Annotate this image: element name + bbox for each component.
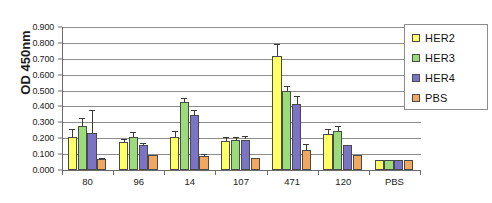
gridline xyxy=(63,27,421,28)
chart-legend: HER2HER3HER4PBS xyxy=(404,24,488,110)
bar-her3-14 xyxy=(180,102,189,170)
chart-title-clipped xyxy=(0,0,492,12)
error-bar-cap xyxy=(79,118,85,119)
error-bar-cap xyxy=(335,126,341,127)
bar-her4-pbs xyxy=(394,160,403,170)
error-bar-cap xyxy=(325,129,331,130)
bar-pbs-471 xyxy=(302,150,311,170)
error-bar-cap xyxy=(130,132,136,133)
gridline xyxy=(63,122,421,123)
error-bar-cap xyxy=(172,131,178,132)
x-axis-separator xyxy=(164,170,165,175)
bar-her2-80 xyxy=(68,137,77,170)
y-tick-label: 0.800 xyxy=(2,38,54,48)
bar-her4-96 xyxy=(139,145,148,170)
legend-swatch-her4 xyxy=(412,74,420,82)
error-bar-cap xyxy=(89,110,95,111)
error-bar xyxy=(72,129,73,137)
y-tick-label: 0.900 xyxy=(2,22,54,32)
bar-her4-107 xyxy=(241,140,250,171)
x-axis-separator xyxy=(62,170,63,175)
error-bar-cap xyxy=(99,158,105,159)
error-bar-cap xyxy=(294,96,300,97)
x-tick-label-471: 471 xyxy=(284,176,300,187)
y-tick-label: 0.200 xyxy=(2,133,54,143)
bar-pbs-14 xyxy=(199,156,208,170)
gridline xyxy=(63,106,421,107)
legend-label: HER3 xyxy=(425,52,455,64)
error-bar-cap xyxy=(201,154,207,155)
error-bar-cap xyxy=(121,139,127,140)
legend-swatch-pbs xyxy=(412,94,420,102)
legend-item-pbs[interactable]: PBS xyxy=(412,91,448,105)
error-bar-cap xyxy=(242,136,248,137)
legend-swatch-her2 xyxy=(412,34,420,42)
bar-pbs-120 xyxy=(353,155,362,170)
y-tick-label: 0.300 xyxy=(2,117,54,127)
error-bar-cap xyxy=(303,144,309,145)
y-tick-label: 0.400 xyxy=(2,101,54,111)
bar-her3-80 xyxy=(78,126,87,170)
legend-swatch-her3 xyxy=(412,54,420,62)
bar-her2-471 xyxy=(272,56,281,170)
bar-her3-120 xyxy=(333,131,342,170)
y-tick-label: 0.100 xyxy=(2,149,54,159)
error-bar-cap xyxy=(284,86,290,87)
bar-her3-pbs xyxy=(384,160,393,170)
x-tick-label-120: 120 xyxy=(335,176,351,187)
bar-her3-107 xyxy=(231,140,240,170)
bar-her2-pbs xyxy=(375,160,384,170)
bar-her4-14 xyxy=(190,115,199,170)
gridline xyxy=(63,75,421,76)
error-bar-cap xyxy=(191,110,197,111)
bar-pbs-80 xyxy=(97,159,106,170)
bar-her2-14 xyxy=(170,137,179,170)
y-tick-label: 0.600 xyxy=(2,70,54,80)
error-bar xyxy=(82,118,83,126)
error-bar-cap xyxy=(223,137,229,138)
bar-chart: OD 450nm 0.9000.8000.7000.6000.5000.4000… xyxy=(0,0,492,203)
gridline xyxy=(63,43,421,44)
x-axis-separator xyxy=(369,170,370,175)
x-axis-line xyxy=(62,170,420,171)
x-tick-label-14: 14 xyxy=(185,176,196,187)
legend-item-her3[interactable]: HER3 xyxy=(412,51,455,65)
x-axis-separator xyxy=(318,170,319,175)
bar-her2-120 xyxy=(323,134,332,170)
bar-pbs-96 xyxy=(148,155,157,170)
gridline xyxy=(63,91,421,92)
bar-her2-107 xyxy=(221,141,230,170)
y-tick-label: 0.000 xyxy=(2,165,54,175)
x-tick-label-pbs: PBS xyxy=(385,176,404,187)
bar-her2-96 xyxy=(119,142,128,170)
legend-label: PBS xyxy=(425,92,448,104)
bar-her4-80 xyxy=(87,133,96,170)
error-bar-cap xyxy=(274,44,280,45)
error-bar-cap xyxy=(181,98,187,99)
error-bar xyxy=(92,110,93,133)
x-axis-separator xyxy=(113,170,114,175)
bar-her4-120 xyxy=(343,145,352,170)
x-axis-separator xyxy=(267,170,268,175)
error-bar-cap xyxy=(233,137,239,138)
error-bar xyxy=(277,44,278,56)
error-bar-cap xyxy=(69,129,75,130)
legend-item-her4[interactable]: HER4 xyxy=(412,71,455,85)
x-tick-label-80: 80 xyxy=(82,176,93,187)
y-tick-label: 0.500 xyxy=(2,86,54,96)
bar-her4-471 xyxy=(292,104,301,170)
legend-label: HER4 xyxy=(425,72,455,84)
y-tick-label: 0.700 xyxy=(2,54,54,64)
error-bar-cap xyxy=(140,143,146,144)
bar-her3-96 xyxy=(129,137,138,170)
legend-item-her2[interactable]: HER2 xyxy=(412,31,455,45)
x-axis-separator xyxy=(420,170,421,175)
x-tick-label-107: 107 xyxy=(233,176,249,187)
legend-label: HER2 xyxy=(425,32,455,44)
bar-her3-471 xyxy=(282,91,291,170)
bar-pbs-107 xyxy=(251,158,260,170)
x-axis-separator xyxy=(215,170,216,175)
gridline xyxy=(63,59,421,60)
plot-area xyxy=(62,27,420,170)
error-bar xyxy=(297,96,298,104)
